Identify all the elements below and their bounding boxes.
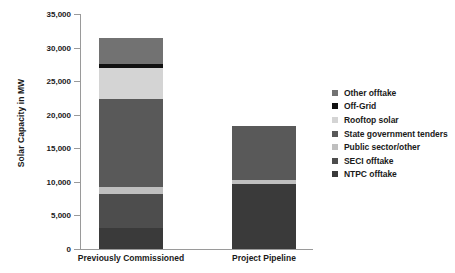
- y-tick: [74, 115, 80, 116]
- bar-column[interactable]: [99, 38, 163, 249]
- bar-segment[interactable]: [99, 187, 163, 194]
- y-tick: [74, 182, 80, 183]
- legend-item[interactable]: Rooftop solar: [332, 113, 448, 127]
- y-tick-label: 30,000: [47, 43, 71, 52]
- legend-swatch-icon: [332, 103, 338, 109]
- y-tick-label: 15,000: [47, 144, 71, 153]
- y-tick: [74, 48, 80, 49]
- legend-item[interactable]: NTPC offtake: [332, 168, 448, 182]
- y-axis-title: Solar Capacity in MW: [16, 58, 26, 188]
- legend-item-label: Public sector/other: [344, 142, 420, 152]
- legend-swatch-icon: [332, 131, 338, 137]
- legend-item[interactable]: State government tenders: [332, 127, 448, 141]
- legend-swatch-icon: [332, 158, 338, 164]
- legend-item-label: NTPC offtake: [344, 169, 397, 179]
- legend-swatch-icon: [332, 144, 338, 150]
- chart-legend: Other offtakeOff-GridRooftop solarState …: [332, 86, 448, 181]
- legend-item-label: Rooftop solar: [344, 115, 399, 125]
- bar-segment[interactable]: [99, 68, 163, 100]
- legend-swatch-icon: [332, 171, 338, 177]
- y-axis-line: [80, 14, 81, 249]
- y-tick-label: 10,000: [47, 177, 71, 186]
- plot-area: 05,00010,00015,00020,00025,00030,00035,0…: [80, 14, 313, 249]
- x-axis-label: Previously Commissioned: [78, 253, 184, 263]
- legend-item[interactable]: Other offtake: [332, 86, 448, 100]
- legend-swatch-icon: [332, 90, 338, 96]
- legend-swatch-icon: [332, 117, 338, 123]
- legend-item[interactable]: SECI offtake: [332, 154, 448, 168]
- y-tick-label: 5,000: [51, 211, 71, 220]
- bar-segment[interactable]: [232, 126, 296, 180]
- bar-column[interactable]: [232, 126, 296, 249]
- legend-item[interactable]: Public sector/other: [332, 140, 448, 154]
- bar-segment[interactable]: [99, 194, 163, 228]
- y-tick: [74, 148, 80, 149]
- y-tick: [74, 215, 80, 216]
- y-tick-label: 35,000: [47, 10, 71, 19]
- bar-segment[interactable]: [232, 184, 296, 249]
- legend-item-label: Other offtake: [344, 88, 396, 98]
- bar-segment[interactable]: [99, 38, 163, 65]
- legend-item-label: Off-Grid: [344, 101, 376, 111]
- legend-item-label: State government tenders: [344, 129, 448, 139]
- y-tick-label: 0: [67, 245, 71, 254]
- bar-segment[interactable]: [99, 99, 163, 187]
- bar-segment[interactable]: [99, 228, 163, 249]
- y-tick: [74, 14, 80, 15]
- legend-item[interactable]: Off-Grid: [332, 100, 448, 114]
- legend-item-label: SECI offtake: [344, 156, 393, 166]
- x-axis-label: Project Pipeline: [232, 253, 296, 263]
- stacked-bar-chart: Solar Capacity in MW 05,00010,00015,0002…: [0, 0, 455, 273]
- y-tick: [74, 249, 80, 250]
- y-tick-label: 25,000: [47, 77, 71, 86]
- y-tick-label: 20,000: [47, 110, 71, 119]
- x-axis-line: [80, 249, 313, 250]
- y-tick: [74, 81, 80, 82]
